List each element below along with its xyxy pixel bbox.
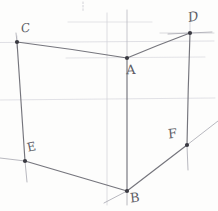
vertex-dot-C [15,40,19,44]
vertex-dot-F [185,143,189,147]
guide-h-99 [0,98,215,100]
edge-C-A [17,42,127,58]
extension-below-F [187,145,188,170]
vertex-dot-A [125,56,129,60]
edge-B-F [127,145,187,191]
vertex-dots [15,31,192,193]
cube-edges [17,33,190,191]
edge-A-D [127,33,190,58]
edge-E-B [25,161,127,191]
vertex-label-C: C [20,21,31,34]
vertex-dot-D [188,31,192,35]
vertex-label-A: A [126,63,136,76]
cube-sketch-canvas: C D A E F B [0,0,218,211]
guide-h-58 [66,57,205,58]
extension-below-E [25,161,27,182]
edge-D-F [187,33,190,145]
vertex-label-B: B [129,191,140,205]
vertex-label-F: F [167,127,177,141]
extension-left-of-B [104,191,127,203]
extension-beyond-F [187,121,218,145]
edge-C-E [17,42,25,161]
cube-sketch-drawing [0,0,218,211]
extension-left-of-E [0,158,25,161]
construction-lines [0,2,215,205]
vertex-dot-E [23,159,27,163]
